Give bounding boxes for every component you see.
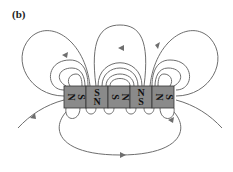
field-diagram: N S S N S N N S N S (0, 0, 233, 172)
magnet-0-left-pole: N (66, 93, 77, 101)
magnet-2-left-pole: S (110, 94, 121, 100)
magnet-1-bottom-pole: N (93, 96, 101, 107)
magnet-0-right-pole: S (76, 94, 87, 100)
magnet-2-right-pole: N (120, 93, 131, 101)
magnet-array: N S S N S N N S N S (64, 86, 175, 108)
magnet-3-bottom-pole: S (138, 96, 144, 107)
magnet-4-right-pole: S (164, 94, 175, 100)
magnet-4-left-pole: N (154, 93, 165, 101)
